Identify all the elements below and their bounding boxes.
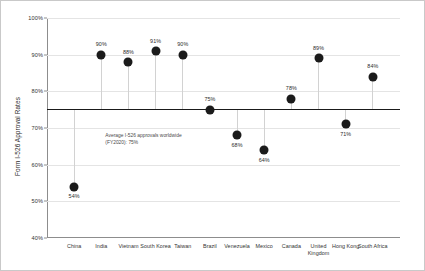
y-tick-mark — [44, 201, 47, 202]
plot-area: 100%90%80%70%60%50%40% 54%90%88%91%90%75… — [47, 18, 400, 238]
y-tick-label: 90% — [32, 52, 44, 58]
x-tick-label: South Africa — [356, 243, 390, 250]
data-point-label: 71% — [340, 131, 351, 137]
data-point-stem — [155, 51, 156, 110]
data-point-marker[interactable] — [341, 120, 350, 129]
data-point-label: 90% — [96, 41, 107, 47]
y-axis-title: Form I-526 Approval Rates — [10, 1, 24, 271]
data-point-stem — [372, 77, 373, 110]
data-point-marker[interactable] — [233, 131, 242, 140]
data-point-marker[interactable] — [178, 50, 187, 59]
data-point-stem — [182, 55, 183, 110]
y-tick-mark — [44, 54, 47, 55]
y-tick-label: 40% — [32, 235, 44, 241]
chart-figure: Form I-526 Approval Rates 100%90%80%70%6… — [0, 0, 425, 271]
data-point-marker[interactable] — [124, 58, 133, 67]
y-tick-mark — [44, 91, 47, 92]
data-point-stem — [101, 55, 102, 110]
y-tick-mark — [44, 18, 47, 19]
data-point-label: 64% — [259, 157, 270, 163]
data-point-label: 68% — [232, 142, 243, 148]
y-tick-mark — [44, 238, 47, 239]
y-tick-label: 80% — [32, 88, 44, 94]
data-point-label: 89% — [313, 45, 324, 51]
average-reference-line — [47, 109, 400, 111]
data-point-label: 90% — [177, 41, 188, 47]
y-tick-mark — [44, 128, 47, 129]
data-point-marker[interactable] — [70, 182, 79, 191]
data-point-label: 78% — [286, 85, 297, 91]
y-tick-label: 50% — [32, 198, 44, 204]
data-point-marker[interactable] — [97, 50, 106, 59]
gridline — [47, 201, 400, 202]
data-point-label: 54% — [69, 193, 80, 199]
data-point-marker[interactable] — [368, 72, 377, 81]
y-tick-label: 60% — [32, 162, 44, 168]
y-tick-mark — [44, 164, 47, 165]
y-tick-label: 100% — [28, 15, 43, 21]
data-point-stem — [318, 58, 319, 109]
data-point-marker[interactable] — [260, 146, 269, 155]
data-point-marker[interactable] — [287, 94, 296, 103]
data-point-marker[interactable] — [314, 54, 323, 63]
data-point-stem — [74, 110, 75, 187]
average-annotation: Average I-526 approvals worldwide (FY202… — [105, 133, 183, 147]
data-point-marker[interactable] — [205, 105, 214, 114]
data-point-marker[interactable] — [151, 47, 160, 56]
y-axis-title-text: Form I-526 Approval Rates — [14, 97, 21, 176]
x-axis-line — [47, 237, 400, 238]
gridline — [47, 18, 400, 19]
y-tick-label: 70% — [32, 125, 44, 131]
data-point-label: 91% — [150, 38, 161, 44]
data-point-label: 84% — [367, 63, 378, 69]
gridline — [47, 165, 400, 166]
data-point-label: 75% — [204, 96, 215, 102]
data-point-stem — [264, 110, 265, 150]
data-point-label: 88% — [123, 49, 134, 55]
data-point-stem — [128, 62, 129, 110]
